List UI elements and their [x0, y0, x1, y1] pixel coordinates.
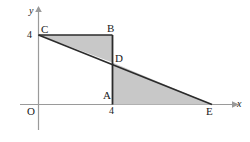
geometry-figure: y x O 4 4 C B D A E: [0, 0, 250, 142]
x-axis-label: x: [237, 99, 241, 109]
x-tick-label-4: 4: [109, 106, 114, 116]
origin-label: O: [27, 106, 35, 117]
y-axis-label: y: [29, 6, 33, 16]
geometry-canvas: [0, 0, 250, 142]
point-label-d: D: [115, 53, 123, 64]
y-tick-label-4: 4: [27, 30, 32, 40]
y-axis-arrow-icon: [35, 6, 42, 12]
point-label-a: A: [103, 90, 111, 101]
point-label-e: E: [206, 106, 213, 117]
point-label-b: B: [107, 23, 114, 34]
point-label-c: C: [41, 24, 48, 35]
